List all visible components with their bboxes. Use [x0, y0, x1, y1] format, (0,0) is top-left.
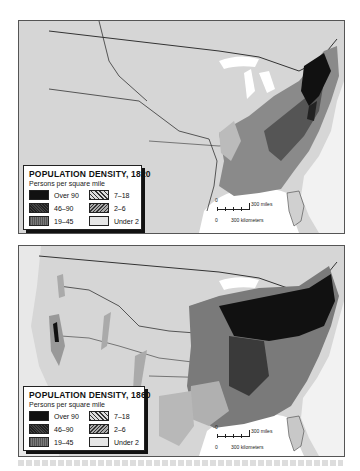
scale-bar-1860: 0 300 miles 0 300 kilometers	[215, 424, 285, 452]
scale-km-label: 300 kilometers	[231, 444, 264, 450]
legend-item-19-45: 19–45	[29, 437, 79, 447]
legend-item-7-18: 7–18	[89, 411, 139, 421]
legend-item-46-90: 46–90	[29, 424, 79, 434]
swatch-icon	[29, 411, 49, 421]
map-1820: POPULATION DENSITY, 1820 Persons per squ…	[18, 20, 345, 234]
swatch-icon	[89, 424, 109, 434]
scale-km-label: 300 kilometers	[231, 217, 264, 223]
legend-item-2-6: 2–6	[89, 203, 139, 213]
legend-item-7-18: 7–18	[89, 190, 139, 200]
legend-item-46-90: 46–90	[29, 203, 79, 213]
map-1860: POPULATION DENSITY, 1860 Persons per squ…	[18, 245, 345, 457]
legend-item-over-90: Over 90	[29, 190, 79, 200]
legend-subtitle: Persons per square mile	[29, 401, 139, 408]
swatch-icon	[29, 424, 49, 434]
legend-item-under-2: Under 2	[89, 216, 139, 226]
scale-bar-1820: 0 300 miles 0 300 kilometers	[215, 197, 285, 225]
legend-1820: POPULATION DENSITY, 1820 Persons per squ…	[23, 165, 142, 230]
legend-item-19-45: 19–45	[29, 216, 79, 226]
scale-miles-label: 300 miles	[251, 428, 272, 434]
caption-illegible	[18, 460, 343, 466]
swatch-icon	[89, 437, 109, 447]
legend-subtitle: Persons per square mile	[29, 180, 136, 187]
swatch-icon	[29, 216, 49, 226]
legend-items: Over 90 7–18 46–90 2–6 19–45 Under 2	[29, 411, 139, 447]
swatch-icon	[29, 203, 49, 213]
legend-item-over-90: Over 90	[29, 411, 79, 421]
swatch-icon	[29, 437, 49, 447]
swatch-icon	[89, 190, 109, 200]
legend-item-2-6: 2–6	[89, 424, 139, 434]
swatch-icon	[89, 216, 109, 226]
swatch-icon	[89, 411, 109, 421]
swatch-icon	[29, 190, 49, 200]
legend-item-under-2: Under 2	[89, 437, 139, 447]
swatch-icon	[89, 203, 109, 213]
scale-miles-label: 300 miles	[251, 201, 272, 207]
legend-items: Over 90 7–18 46–90 2–6 19–45 Under 2	[29, 190, 136, 226]
legend-1860: POPULATION DENSITY, 1860 Persons per squ…	[23, 386, 145, 451]
legend-title: POPULATION DENSITY, 1820	[29, 169, 136, 179]
legend-title: POPULATION DENSITY, 1860	[29, 390, 139, 400]
